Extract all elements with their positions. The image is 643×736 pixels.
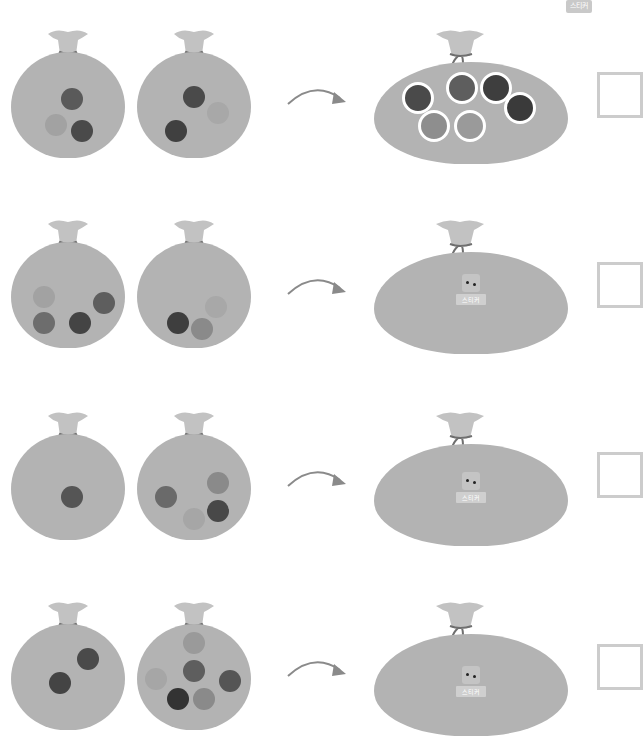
left-bag (8, 410, 128, 540)
coin (183, 632, 205, 654)
coin (454, 110, 486, 142)
coin (77, 648, 99, 670)
bag-body: 스티커 (374, 634, 568, 736)
sticker-face-icon (462, 472, 480, 490)
bag-body (137, 434, 251, 540)
arrow-icon (284, 270, 350, 300)
sticker-face-icon (462, 666, 480, 684)
coin (193, 688, 215, 710)
coin (49, 672, 71, 694)
left-bag (8, 218, 128, 348)
bag-body (11, 434, 125, 540)
coin (205, 296, 227, 318)
coin (183, 660, 205, 682)
sticker-label: 스티커 (456, 294, 486, 305)
coin (207, 102, 229, 124)
sticker-label: 스티커 (456, 686, 486, 697)
bag-body (374, 62, 568, 164)
answer-box[interactable] (597, 72, 643, 118)
result-bag (374, 28, 568, 164)
left-bag (8, 600, 128, 730)
coin (219, 670, 241, 692)
sticker-placeholder[interactable]: 스티커 (454, 472, 488, 508)
arrow-icon (284, 80, 350, 110)
result-bag: 스티커 (374, 410, 568, 546)
sticker-badge: 스티커 (566, 0, 592, 13)
coin (61, 88, 83, 110)
result-bag: 스티커 (374, 218, 568, 354)
right-bag (134, 410, 254, 540)
coin (165, 120, 187, 142)
coin (33, 286, 55, 308)
coin (61, 486, 83, 508)
right-bag (134, 28, 254, 158)
coin (155, 486, 177, 508)
left-bag (8, 28, 128, 158)
coin (183, 508, 205, 530)
answer-box[interactable] (597, 644, 643, 690)
bag-body (11, 242, 125, 348)
answer-box[interactable] (597, 452, 643, 498)
bag-body (137, 52, 251, 158)
sticker-placeholder[interactable]: 스티커 (454, 666, 488, 702)
answer-box[interactable] (597, 262, 643, 308)
problem-row-3: 스티커 (0, 410, 642, 600)
bag-body (137, 624, 251, 730)
coin (71, 120, 93, 142)
problem-row-2: 스티커 (0, 218, 642, 408)
arrow-icon (284, 652, 350, 682)
arrow-icon (284, 462, 350, 492)
right-bag (134, 600, 254, 730)
coin (167, 312, 189, 334)
sticker-face-icon (462, 274, 480, 292)
coin (69, 312, 91, 334)
coin (145, 668, 167, 690)
coin (45, 114, 67, 136)
coin (191, 318, 213, 340)
result-bag: 스티커 (374, 600, 568, 736)
bag-body (11, 624, 125, 730)
problem-row-4: 스티커 (0, 600, 642, 708)
coin (402, 82, 434, 114)
coin (504, 92, 536, 124)
bag-body (137, 242, 251, 348)
coin (33, 312, 55, 334)
problem-row-1 (0, 28, 642, 218)
coin (167, 688, 189, 710)
coin (418, 110, 450, 142)
right-bag (134, 218, 254, 348)
bag-body (11, 52, 125, 158)
sticker-placeholder[interactable]: 스티커 (454, 274, 488, 310)
bag-body: 스티커 (374, 444, 568, 546)
coin (446, 72, 478, 104)
coin (207, 472, 229, 494)
sticker-label: 스티커 (456, 492, 486, 503)
bag-body: 스티커 (374, 252, 568, 354)
coin (93, 292, 115, 314)
coin (207, 500, 229, 522)
coin (183, 86, 205, 108)
